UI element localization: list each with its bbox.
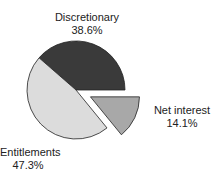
label-entitlements: Entitlements 47.3% <box>0 146 56 172</box>
label-net-interest-value: 14.1% <box>152 117 212 130</box>
label-net-interest: Net interest 14.1% <box>152 104 212 130</box>
label-entitlements-value: 47.3% <box>0 159 56 172</box>
label-discretionary: Discretionary 38.6% <box>52 11 122 37</box>
label-net-interest-name: Net interest <box>152 104 212 117</box>
label-discretionary-value: 38.6% <box>52 24 122 37</box>
label-entitlements-name: Entitlements <box>0 146 56 159</box>
label-discretionary-name: Discretionary <box>52 11 122 24</box>
